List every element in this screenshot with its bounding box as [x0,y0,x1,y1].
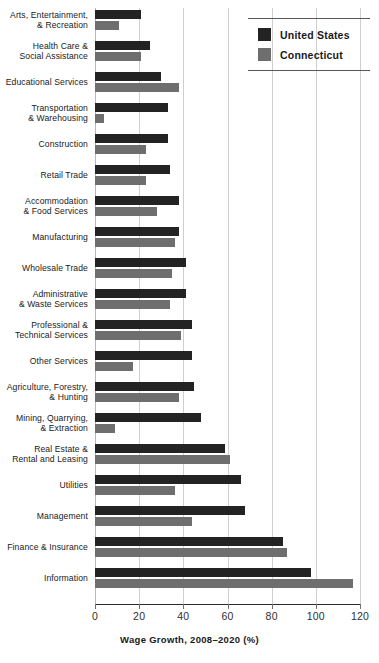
bar-row: Agriculture, Forestry,& Hunting [0,382,379,413]
category-label-line: & Hunting [0,392,88,403]
x-tick-mark [272,604,273,609]
category-label: Transportation& Warehousing [0,103,88,124]
x-tick-label: 40 [177,610,189,622]
bar-row: Manufacturing [0,227,379,258]
x-tick-label: 60 [221,610,233,622]
category-label-line: Professional & [0,320,88,331]
bar-row: Health Care &Social Assistance [0,41,379,72]
bar-connecticut [95,52,141,61]
bar-row: Utilities [0,475,379,506]
bar-row: Transportation& Warehousing [0,103,379,134]
category-label: Educational Services [0,77,88,88]
bar-row: Educational Services [0,72,379,103]
bar-row: Administrative& Waste Services [0,289,379,320]
category-label: Information [0,573,88,584]
bar-united-states [95,382,194,391]
bar-united-states [95,444,225,453]
x-tick-label: 80 [266,610,278,622]
category-label: Agriculture, Forestry,& Hunting [0,382,88,403]
category-label-line: Educational Services [0,77,88,88]
bar-united-states [95,41,150,50]
bar-row: Mining, Quarrying,& Extraction [0,413,379,444]
category-label-line: Real Estate & [0,444,88,455]
x-tick-label: 100 [307,610,325,622]
bar-connecticut [95,269,172,278]
bar-united-states [95,258,186,267]
category-label-line: Accommodation [0,196,88,207]
x-tick-label: 120 [351,610,369,622]
category-label: Mining, Quarrying,& Extraction [0,413,88,434]
category-label-line: Wholesale Trade [0,263,88,274]
category-label-line: & Extraction [0,423,88,434]
x-tick-label: 20 [133,610,145,622]
category-label: Other Services [0,356,88,367]
category-label: Retail Trade [0,170,88,181]
bar-connecticut [95,145,146,154]
x-tick-mark [139,604,140,609]
bar-connecticut [95,83,179,92]
category-label: Health Care &Social Assistance [0,41,88,62]
bar-connecticut [95,331,181,340]
category-label: Management [0,511,88,522]
bar-united-states [95,165,170,174]
bar-united-states [95,10,141,19]
bar-united-states [95,289,186,298]
bar-united-states [95,196,179,205]
category-label-line: Rental and Leasing [0,454,88,465]
bar-row: Real Estate &Rental and Leasing [0,444,379,475]
bar-connecticut [95,362,133,371]
category-label: Construction [0,139,88,150]
category-label-line: Other Services [0,356,88,367]
bar-united-states [95,134,168,143]
category-label-line: Agriculture, Forestry, [0,382,88,393]
category-label-line: Construction [0,139,88,150]
bar-united-states [95,413,201,422]
category-label-line: Social Assistance [0,51,88,62]
bar-connecticut [95,393,179,402]
x-tick-mark [228,604,229,609]
x-tick-mark [95,604,96,609]
category-label: Professional &Technical Services [0,320,88,341]
category-label: Accommodation& Food Services [0,196,88,217]
bar-connecticut [95,176,146,185]
bar-row: Professional &Technical Services [0,320,379,351]
bar-united-states [95,320,192,329]
category-label: Utilities [0,480,88,491]
category-label: Wholesale Trade [0,263,88,274]
bar-connecticut [95,238,175,247]
bar-connecticut [95,21,119,30]
x-tick-mark [360,604,361,609]
bar-united-states [95,351,192,360]
category-label: Administrative& Waste Services [0,289,88,310]
bar-chart: United States Connecticut Arts, Entertai… [0,0,379,663]
x-tick-label: 0 [92,610,98,622]
bar-row: Retail Trade [0,165,379,196]
bar-row: Accommodation& Food Services [0,196,379,227]
bar-united-states [95,475,241,484]
category-label-line: Finance & Insurance [0,542,88,553]
x-tick-mark [183,604,184,609]
bar-row: Construction [0,134,379,165]
category-label-line: Mining, Quarrying, [0,413,88,424]
category-label-line: Information [0,573,88,584]
category-label-line: & Food Services [0,206,88,217]
bar-row: Information [0,568,379,599]
category-label-line: Manufacturing [0,232,88,243]
bar-connecticut [95,579,353,588]
category-label: Arts, Entertainment,& Recreation [0,10,88,31]
bar-connecticut [95,486,175,495]
bar-row: Other Services [0,351,379,382]
bar-row: Arts, Entertainment,& Recreation [0,10,379,41]
x-tick-mark [316,604,317,609]
bar-connecticut [95,300,170,309]
bar-connecticut [95,517,192,526]
category-label-line: Administrative [0,289,88,300]
category-label-line: Utilities [0,480,88,491]
category-label-line: Management [0,511,88,522]
bar-connecticut [95,207,157,216]
category-label: Real Estate &Rental and Leasing [0,444,88,465]
bar-connecticut [95,424,115,433]
bar-united-states [95,227,179,236]
category-label: Manufacturing [0,232,88,243]
bar-united-states [95,537,283,546]
